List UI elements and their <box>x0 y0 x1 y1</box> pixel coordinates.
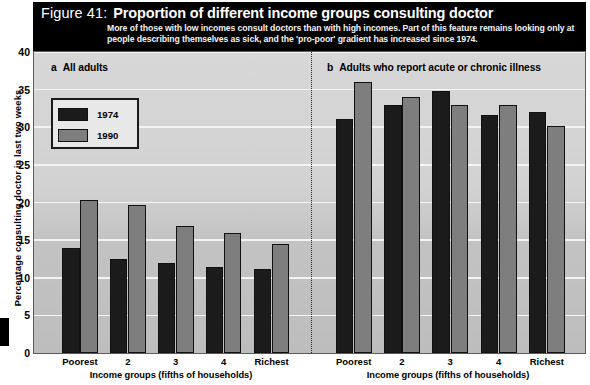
x-tick-label: 2 <box>399 356 404 367</box>
x-tick-label: Richest <box>530 356 564 367</box>
x-tick-label: 4 <box>496 356 501 367</box>
panel-a-caption: aAll adults <box>51 62 108 73</box>
bar-1990-2 <box>402 97 420 353</box>
legend-label-1974: 1974 <box>97 109 118 120</box>
y-tick-label: 40 <box>18 46 30 58</box>
bar-1990-4 <box>224 233 241 353</box>
x-tick-label: Poorest <box>336 356 371 367</box>
panel-b-letter: b <box>327 62 333 73</box>
gridline <box>34 51 585 53</box>
legend-item-1990: 1990 <box>58 126 137 145</box>
x-axis-panel-b: Income groups (fifths of households) Poo… <box>310 356 586 384</box>
x-tick-label: 4 <box>221 356 226 367</box>
plot-area: aAll adults bAdults who report acute or … <box>33 51 586 354</box>
bar-1974-richest <box>254 269 271 353</box>
x-axis-panel-a: Income groups (fifths of households) Poo… <box>33 356 309 384</box>
bar-1990-poorest <box>80 200 97 354</box>
gridline <box>34 89 585 91</box>
bar-1974-poorest <box>336 119 354 353</box>
figure-title: Proportion of different income groups co… <box>113 5 493 21</box>
legend-swatch-1974 <box>58 108 88 121</box>
bar-1974-2 <box>384 105 402 353</box>
figure-number: Figure 41: <box>41 5 107 21</box>
x-axis-title-a: Income groups (fifths of households) <box>33 370 309 380</box>
bar-1990-richest <box>272 244 289 353</box>
x-tick-label: 3 <box>173 356 178 367</box>
figure-subtitle: More of those with low incomes consult d… <box>107 23 577 45</box>
title-row: Figure 41: Proportion of different incom… <box>41 5 580 21</box>
x-tick-label: Richest <box>254 356 288 367</box>
bar-1974-2 <box>110 259 127 353</box>
bar-1974-4 <box>481 115 499 353</box>
x-axis-title-b: Income groups (fifths of households) <box>310 370 586 380</box>
bar-1990-3 <box>176 226 193 353</box>
bar-1990-4 <box>499 105 517 353</box>
y-axis-title: Percentage consulting doctor in last two… <box>13 63 23 333</box>
panel-b-label: Adults who report acute or chronic illne… <box>339 62 541 73</box>
bar-1990-richest <box>547 126 565 353</box>
bar-1974-3 <box>158 263 175 353</box>
page-edge-marker <box>0 318 9 346</box>
y-tick-label: 5 <box>24 309 30 321</box>
legend-swatch-1990 <box>58 129 88 142</box>
legend: 1974 1990 <box>51 98 139 149</box>
bar-1974-poorest <box>62 248 79 353</box>
panel-a-label: All adults <box>63 62 108 73</box>
y-tick-label: 0 <box>24 347 30 359</box>
panel-b-caption: bAdults who report acute or chronic illn… <box>327 62 541 73</box>
bar-1990-3 <box>451 105 469 353</box>
x-tick-label: 2 <box>125 356 130 367</box>
legend-label-1990: 1990 <box>97 130 118 141</box>
bar-1974-4 <box>206 267 223 353</box>
legend-item-1974: 1974 <box>58 105 137 124</box>
figure-41: Figure 41: Proportion of different incom… <box>0 0 590 385</box>
bar-1974-3 <box>432 91 450 353</box>
panel-divider <box>311 52 312 353</box>
x-tick-label: Poorest <box>62 356 97 367</box>
bar-1990-poorest <box>354 82 372 353</box>
title-banner: Figure 41: Proportion of different incom… <box>33 2 586 51</box>
panel-a-letter: a <box>51 62 57 73</box>
x-tick-label: 3 <box>448 356 453 367</box>
bar-1974-richest <box>529 112 547 353</box>
bar-1990-2 <box>128 205 145 353</box>
